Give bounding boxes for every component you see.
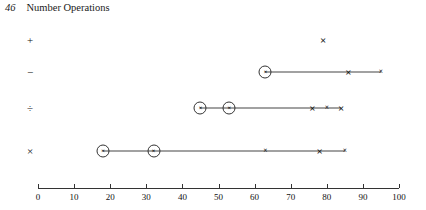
data-point-multiply-2: × [263,147,267,155]
x-axis-tick-label-10: 10 [70,192,79,202]
x-axis-tick-label-90: 90 [358,192,367,202]
number-operations-figure: 46Number Operations +×−×××÷×××××××××××01… [0,0,426,210]
x-axis-tick-100 [399,184,400,188]
range-line-multiply [103,151,345,152]
circle-ring-icon: × [194,102,207,115]
data-point-multiply-4: × [343,147,347,155]
x-axis-tick-90 [363,184,364,188]
x-axis-tick-label-100: 100 [392,192,406,202]
data-point-divide-0: × [194,102,207,115]
page-header: 46Number Operations [5,2,110,13]
x-axis-line [38,188,399,189]
row-label-minus: − [22,67,38,78]
x-marker-icon: × [97,148,108,155]
x-marker-icon: × [148,148,159,155]
x-axis-tick-label-0: 0 [36,192,41,202]
data-point-divide-4: × [338,103,344,114]
data-point-minus-0: × [259,66,272,79]
x-axis-tick-label-20: 20 [106,192,115,202]
row-label-+: + [22,35,38,46]
x-axis-tick-label-40: 40 [178,192,187,202]
data-point-multiply-0: × [96,145,109,158]
circle-ring-icon: × [259,66,272,79]
x-axis-tick-label-80: 80 [322,192,331,202]
data-point-minus-2: × [379,68,383,76]
page-number: 46 [5,2,16,13]
x-axis-tick-label-60: 60 [250,192,259,202]
x-axis-tick-50 [219,184,220,188]
row-label-divide: ÷ [22,103,38,114]
x-axis-tick-10 [74,184,75,188]
x-axis-tick-60 [255,184,256,188]
circle-ring-icon: × [147,145,160,158]
x-axis-tick-30 [146,184,147,188]
data-point-multiply-1: × [147,145,160,158]
data-point-divide-3: × [325,104,329,112]
data-point-divide-2: × [309,103,315,114]
range-line-divide [200,108,341,109]
plot-area: +×−×××÷×××××××××××0102030405060708090100 [0,0,426,210]
x-marker-icon: × [195,105,206,112]
circle-ring-icon: × [96,145,109,158]
x-marker-icon: × [260,69,271,76]
x-axis-tick-label-50: 50 [214,192,223,202]
data-point-+-0: × [320,35,326,46]
x-axis-tick-label-70: 70 [286,192,295,202]
x-axis-tick-70 [291,184,292,188]
x-marker-icon: × [224,105,235,112]
x-axis-tick-40 [182,184,183,188]
data-point-divide-1: × [223,102,236,115]
x-axis-tick-20 [110,184,111,188]
x-axis-tick-80 [327,184,328,188]
circle-ring-icon: × [223,102,236,115]
page-title: Number Operations [27,2,110,13]
x-axis-tick-label-30: 30 [142,192,151,202]
data-point-minus-1: × [345,67,351,78]
range-line-minus [265,72,381,73]
row-label-multiply: × [22,146,38,157]
data-point-multiply-3: × [316,146,322,157]
x-axis-tick-0 [38,184,39,188]
